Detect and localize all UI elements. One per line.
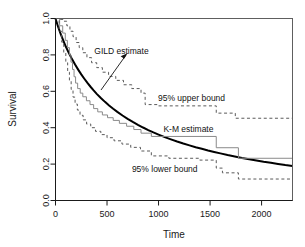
gild-estimate-label: GILD estimate	[94, 46, 149, 56]
x-tick-label: 500	[100, 209, 115, 219]
y-tick-label: 0.0	[41, 194, 51, 207]
x-tick-label: 0	[53, 209, 58, 219]
y-tick-label: 1.0	[41, 12, 51, 25]
upper-bound-label: 95% upper bound	[158, 93, 225, 103]
lower-bound-label: 95% lower bound	[132, 164, 198, 174]
km-estimate-label: K-M estimate	[163, 124, 213, 134]
x-tick-label: 1500	[200, 209, 220, 219]
y-tick-label: 0.4	[41, 121, 51, 134]
y-tick-label: 0.8	[41, 49, 51, 62]
y-tick-label: 0.2	[41, 158, 51, 171]
plot-canvas: 0500100015002000 0.00.20.40.60.81.0 GILD…	[0, 0, 305, 247]
x-tick-label: 1000	[149, 209, 169, 219]
x-axis-title: Time	[163, 229, 185, 240]
y-axis-title: Survival	[7, 91, 18, 127]
survival-plot-figure: 0500100015002000 0.00.20.40.60.81.0 GILD…	[0, 0, 305, 247]
y-tick-label: 0.6	[41, 85, 51, 98]
x-tick-label: 2000	[252, 209, 272, 219]
